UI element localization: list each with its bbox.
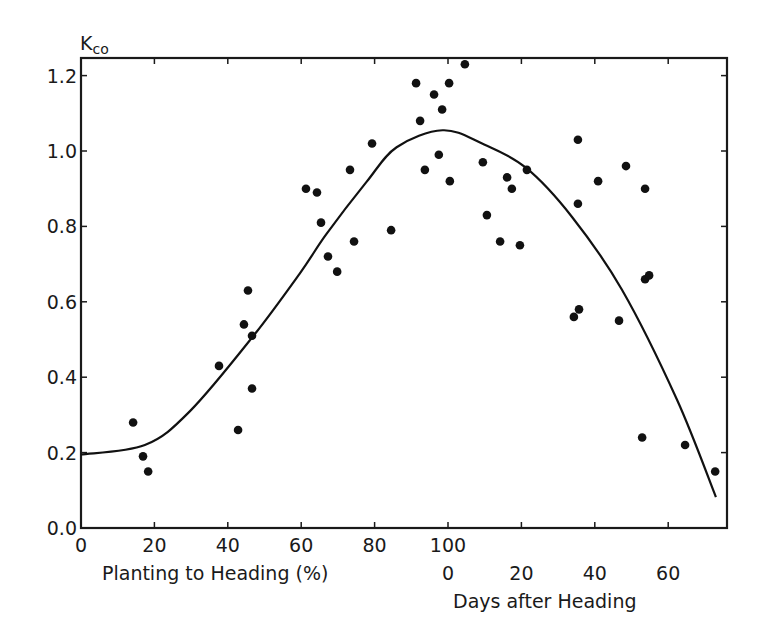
x-axis-secondary: 0204060 [442, 58, 680, 584]
x-tick-label: 20 [142, 534, 166, 556]
data-point [324, 252, 333, 261]
data-point [516, 241, 525, 250]
data-point [496, 237, 505, 246]
data-point [248, 331, 257, 340]
data-point [445, 79, 454, 88]
x-axis-title-secondary: Days after Heading [453, 590, 637, 612]
data-point [313, 188, 322, 197]
data-point [412, 79, 421, 88]
data-point [622, 162, 631, 171]
data-point [129, 418, 138, 427]
data-point [435, 150, 444, 159]
x-tick-label-days: 20 [509, 562, 533, 584]
data-point [483, 211, 492, 220]
x-tick-label: 100 [430, 534, 466, 556]
fitted-curve-line [81, 130, 716, 497]
y-axis-title: Kco [80, 32, 109, 57]
data-point [317, 218, 326, 227]
y-tick-label: 0.8 [47, 215, 77, 237]
y-tick-label: 0.4 [47, 366, 77, 388]
data-point [240, 320, 249, 329]
y-axis-title-main: K [80, 32, 93, 54]
data-point [333, 267, 342, 276]
x-tick-label: 60 [289, 534, 313, 556]
data-point [446, 177, 455, 186]
data-point [244, 286, 253, 295]
x-axis-title-primary: Planting to Heading (%) [102, 562, 328, 584]
x-tick-label-days: 60 [656, 562, 680, 584]
data-point [638, 433, 647, 442]
plot-frame [81, 58, 727, 528]
data-point [387, 226, 396, 235]
chart: 0.00.20.40.60.81.01.2 020406080100 02040… [0, 0, 763, 630]
y-tick-label: 0.2 [47, 442, 77, 464]
data-points [129, 60, 720, 476]
data-point [248, 384, 257, 393]
data-point [479, 158, 488, 167]
y-tick-label: 0.6 [47, 291, 77, 313]
x-tick-label: 40 [216, 534, 240, 556]
data-point [139, 452, 148, 461]
data-point [508, 184, 517, 193]
data-point [575, 305, 584, 314]
data-point [144, 467, 153, 476]
data-point [461, 60, 470, 69]
data-point [681, 441, 690, 450]
data-point [430, 90, 439, 99]
data-point [302, 184, 311, 193]
data-point [234, 426, 243, 435]
data-point [711, 467, 720, 476]
data-point [421, 166, 430, 175]
x-tick-label-days: 40 [583, 562, 607, 584]
y-tick-label: 1.0 [47, 140, 77, 162]
data-point [368, 139, 377, 148]
data-point [594, 177, 603, 186]
data-point [641, 184, 650, 193]
plot-border [81, 58, 727, 528]
fitted-curve [81, 130, 716, 497]
data-point [438, 105, 447, 114]
y-axis-title-sub: co [92, 41, 108, 57]
x-axis-primary: 020406080100 [75, 58, 466, 556]
x-tick-label: 0 [75, 534, 87, 556]
x-tick-label: 80 [363, 534, 387, 556]
data-point [570, 313, 579, 322]
data-point [645, 271, 654, 280]
y-tick-label: 0.0 [47, 517, 77, 539]
y-tick-label: 1.2 [47, 65, 77, 87]
data-point [574, 199, 583, 208]
data-point [615, 316, 624, 325]
data-point [503, 173, 512, 182]
data-point [523, 166, 532, 175]
data-point [574, 135, 583, 144]
x-tick-label-days: 0 [442, 562, 454, 584]
data-point [346, 166, 355, 175]
data-point [350, 237, 359, 246]
data-point [416, 117, 425, 126]
data-point [215, 362, 224, 371]
